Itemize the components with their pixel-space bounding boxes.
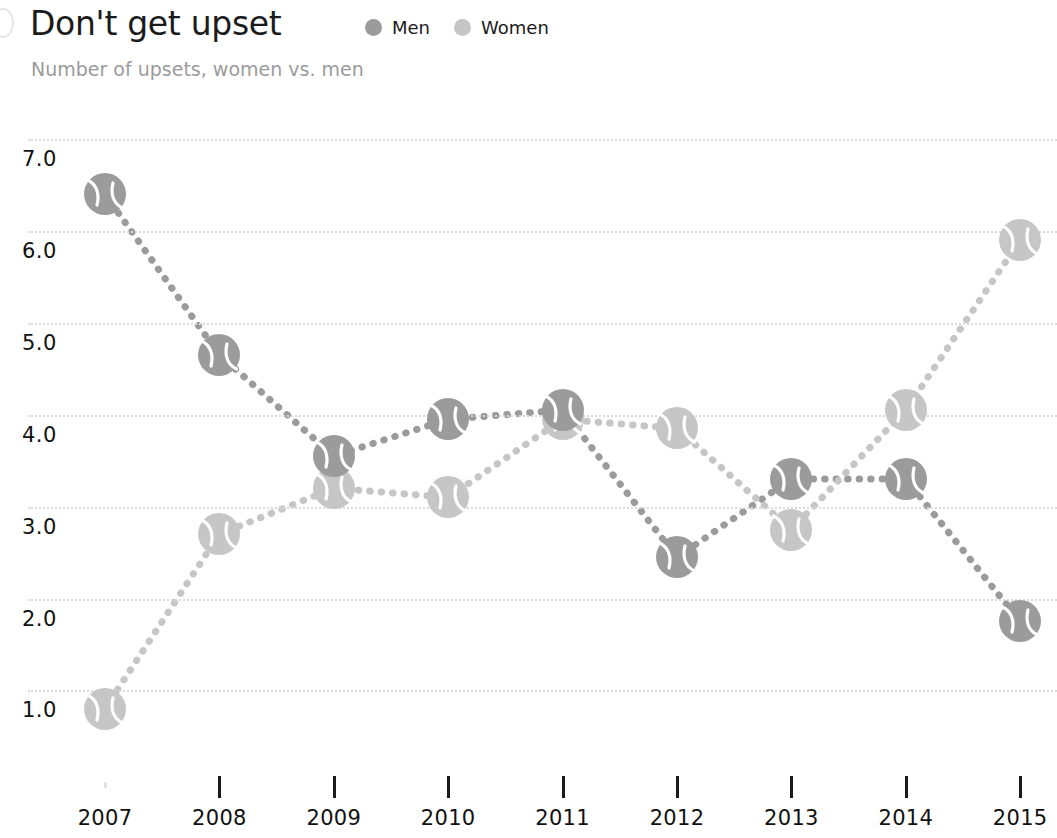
x-axis-tick-mark: [447, 776, 450, 798]
x-axis-tick-label: 2013: [764, 806, 819, 830]
x-axis-tick-label: 2015: [993, 806, 1048, 830]
data-point-marker[interactable]: [768, 456, 814, 502]
gridline: [28, 323, 1057, 325]
y-axis-tick-label: 1.0: [22, 698, 57, 722]
x-axis-tick-mark: [562, 776, 565, 798]
data-point-marker[interactable]: [654, 534, 700, 580]
data-point-marker[interactable]: [196, 511, 242, 557]
data-point-marker[interactable]: [768, 507, 814, 553]
data-point-marker[interactable]: [311, 433, 357, 479]
x-axis-tick-label: 2008: [192, 806, 247, 830]
x-axis-tick-label: 2010: [421, 806, 476, 830]
x-axis-tick-label: 2012: [650, 806, 705, 830]
x-axis-tick-mark: [676, 776, 679, 798]
x-axis-tick-mark: [104, 782, 107, 788]
data-point-marker[interactable]: [540, 387, 586, 433]
data-point-marker[interactable]: [425, 474, 471, 520]
x-axis-tick-mark: [1019, 776, 1022, 798]
y-axis-tick-label: 4.0: [22, 423, 57, 447]
data-point-marker[interactable]: [997, 598, 1043, 644]
gridline: [28, 690, 1057, 692]
data-point-marker[interactable]: [425, 396, 471, 442]
data-point-marker[interactable]: [196, 332, 242, 378]
x-axis-tick-label: 2014: [878, 806, 933, 830]
y-axis-tick-label: 2.0: [22, 607, 57, 631]
x-axis-tick-mark: [333, 776, 336, 798]
gridline: [28, 231, 1057, 233]
gridline: [28, 507, 1057, 509]
line-chart-plot: 7.06.05.04.03.02.01.02007200820092010201…: [0, 0, 1057, 838]
x-axis-tick-label: 2009: [306, 806, 361, 830]
data-point-marker[interactable]: [883, 456, 929, 502]
gridline: [28, 139, 1057, 141]
y-axis-tick-label: 7.0: [22, 147, 57, 171]
data-point-marker[interactable]: [82, 171, 128, 217]
x-axis-tick-label: 2011: [535, 806, 590, 830]
y-axis-tick-label: 5.0: [22, 331, 57, 355]
y-axis-tick-label: 6.0: [22, 239, 57, 263]
gridline: [28, 599, 1057, 601]
x-axis-tick-label: 2007: [78, 806, 133, 830]
x-axis-tick-mark: [218, 776, 221, 798]
x-axis-tick-mark: [905, 776, 908, 798]
data-point-marker[interactable]: [654, 405, 700, 451]
x-axis-tick-mark: [790, 776, 793, 798]
data-point-marker[interactable]: [883, 387, 929, 433]
data-point-marker[interactable]: [997, 217, 1043, 263]
data-point-marker[interactable]: [82, 686, 128, 732]
y-axis-tick-label: 3.0: [22, 515, 57, 539]
